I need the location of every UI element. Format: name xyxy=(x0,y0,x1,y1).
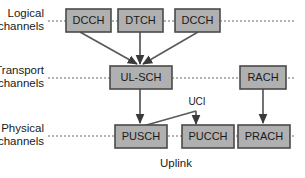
node-dtch-label: DTCH xyxy=(125,14,156,26)
node-pucch-label: PUCCH xyxy=(188,130,227,142)
connector-dcch2-to-ulsch xyxy=(143,32,198,64)
node-pusch[interactable]: PUSCH xyxy=(115,125,167,148)
row-label-transport-line2: channels xyxy=(0,77,44,89)
node-dtch[interactable]: DTCH xyxy=(118,9,163,32)
row-label-transport-line1: Transport xyxy=(0,64,45,76)
node-rach-label: RACH xyxy=(247,71,278,83)
node-dcch1-label: DCCH xyxy=(73,14,105,26)
node-ulsch[interactable]: UL-SCH xyxy=(110,66,172,89)
connector-pusch-to-uci-peak xyxy=(143,111,196,126)
node-dcch2[interactable]: DCCH xyxy=(175,9,220,32)
node-prach[interactable]: PRACH xyxy=(238,125,290,148)
node-dcch1[interactable]: DCCH xyxy=(66,9,111,32)
channel-mapping-diagram: Logical channels Transport channels Phys… xyxy=(0,0,305,178)
node-prach-label: PRACH xyxy=(245,130,284,142)
row-label-physical-line1: Physical xyxy=(1,122,44,134)
diagram-canvas: Logical channels Transport channels Phys… xyxy=(0,0,305,178)
uplink-footer-label: Uplink xyxy=(160,157,192,169)
uci-annotation-label: UCI xyxy=(188,96,205,107)
row-label-physical-line2: channels xyxy=(0,135,44,147)
node-dcch2-label: DCCH xyxy=(182,14,214,26)
node-rach[interactable]: RACH xyxy=(240,66,286,89)
node-pusch-label: PUSCH xyxy=(122,130,161,142)
row-label-logical-line2: channels xyxy=(0,20,44,32)
node-ulsch-label: UL-SCH xyxy=(121,71,162,83)
row-label-logical-line1: Logical xyxy=(8,7,44,19)
node-pucch[interactable]: PUCCH xyxy=(182,125,234,148)
connector-dcch1-to-ulsch xyxy=(80,32,137,64)
